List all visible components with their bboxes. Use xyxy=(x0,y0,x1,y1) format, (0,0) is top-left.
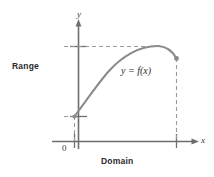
curve-right-endpoint xyxy=(174,56,179,61)
function-curve xyxy=(75,46,177,117)
function-graph-figure: Range Domain y x 0 y = f(x) xyxy=(0,0,214,177)
range-label: Range xyxy=(12,62,39,71)
curve-left-endpoint xyxy=(72,114,76,118)
y-axis-arrowhead xyxy=(76,19,82,27)
x-axis-arrowhead xyxy=(192,139,200,145)
graph-canvas xyxy=(0,0,214,177)
origin-label: 0 xyxy=(62,144,67,153)
x-axis-label: x xyxy=(201,136,205,145)
y-axis xyxy=(76,19,82,149)
y-axis-label: y xyxy=(77,10,81,19)
domain-label: Domain xyxy=(101,157,133,166)
function-equation-label: y = f(x) xyxy=(121,66,151,76)
